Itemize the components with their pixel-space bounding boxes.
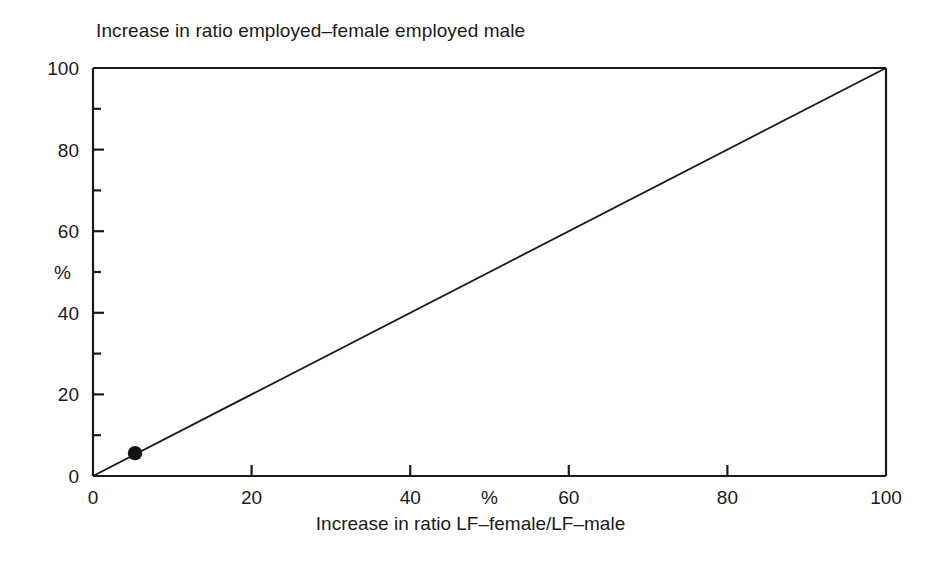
y-tick-label: 0 (68, 466, 79, 487)
x-tick-label: 60 (558, 487, 579, 508)
y-tick-label: 60 (58, 221, 79, 242)
plot-canvas: 020406080100020406080100%% (0, 0, 941, 577)
y-tick-label: 80 (58, 140, 79, 161)
y-tick-label: 40 (58, 303, 79, 324)
chart-title: Increase in ratio employed–female employ… (96, 20, 525, 42)
scatter-chart-figure: Increase in ratio employed–female employ… (0, 0, 941, 577)
x-tick-label: 40 (400, 487, 421, 508)
y-tick-label: 20 (58, 384, 79, 405)
x-tick-label: 100 (870, 487, 902, 508)
x-axis-label: Increase in ratio LF–female/LF–male (0, 513, 941, 535)
reference-line-group (93, 68, 886, 476)
x-tick-label: 0 (88, 487, 99, 508)
x-tick-label: 20 (241, 487, 262, 508)
x-axis-unit-label: % (481, 487, 498, 508)
reference-line (93, 68, 886, 476)
data-points-group (128, 446, 142, 460)
y-tick-label: 100 (47, 58, 79, 79)
tick-marks-group (93, 109, 727, 476)
x-tick-label: 80 (717, 487, 738, 508)
y-axis-unit-label: % (54, 262, 71, 283)
data-point (128, 446, 142, 460)
